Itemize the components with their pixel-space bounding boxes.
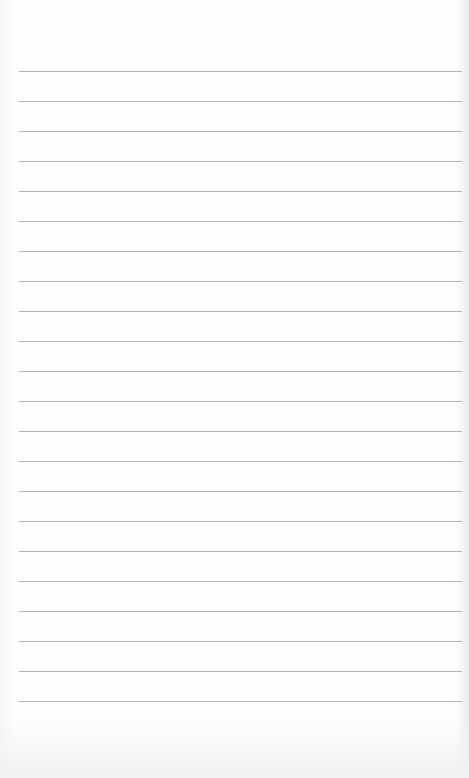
ruled-line (19, 521, 462, 522)
ruled-line (19, 281, 462, 282)
ruled-line (19, 371, 462, 372)
ruled-line (19, 341, 462, 342)
ruled-line (19, 491, 462, 492)
ruled-line (19, 641, 462, 642)
ruled-line (19, 461, 462, 462)
ruled-line (19, 671, 462, 672)
lined-paper-page (0, 0, 469, 778)
ruled-line (19, 401, 462, 402)
ruled-line (19, 251, 462, 252)
ruled-line (19, 551, 462, 552)
ruled-line (19, 101, 462, 102)
ruled-line (19, 311, 462, 312)
ruled-line (19, 611, 462, 612)
ruled-line (19, 221, 462, 222)
ruled-line (19, 581, 462, 582)
paper-shadow (0, 718, 469, 778)
ruled-line (19, 431, 462, 432)
ruled-line (19, 161, 462, 162)
ruled-line (19, 131, 462, 132)
ruled-line (19, 701, 462, 702)
ruled-line (19, 71, 462, 72)
ruled-line (19, 191, 462, 192)
